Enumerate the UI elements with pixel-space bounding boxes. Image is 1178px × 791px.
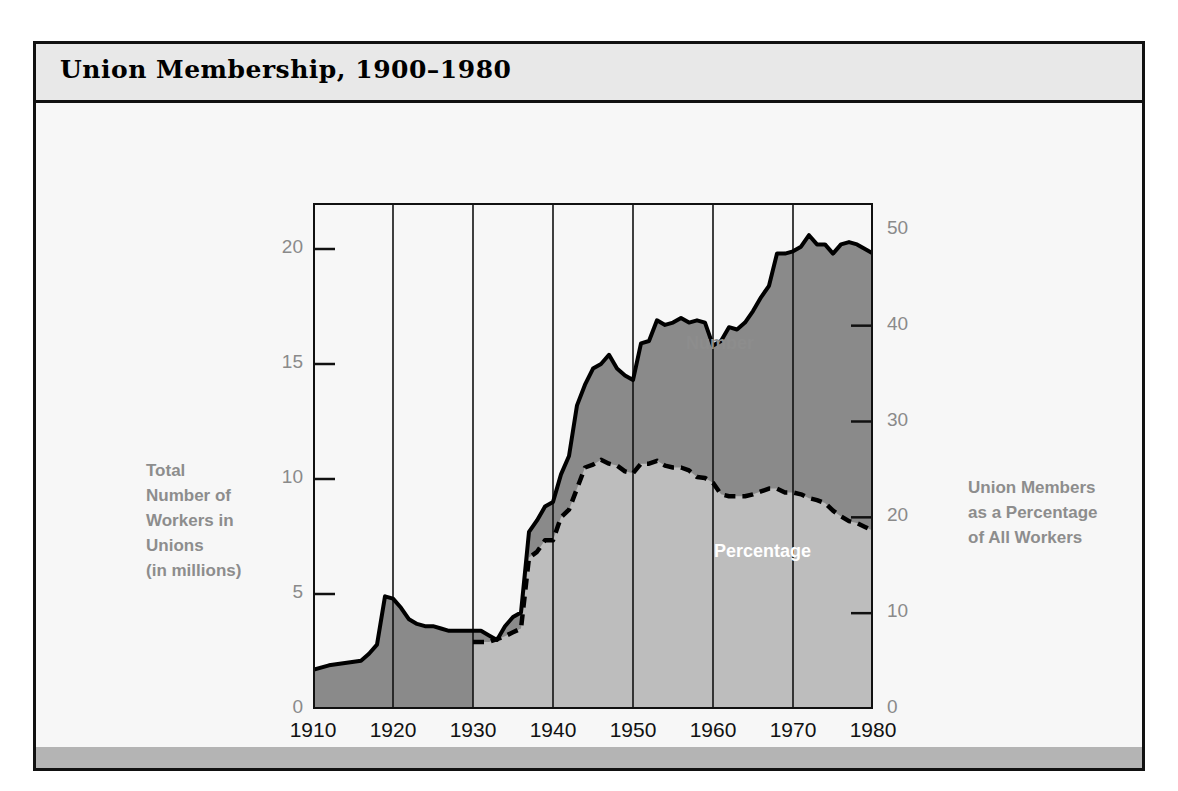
- title-band: Union Membership, 1900–1980: [36, 44, 1142, 103]
- series-label-percentage: Percentage: [714, 541, 811, 562]
- x-axis-tick-1930: 1930: [433, 718, 513, 742]
- figure-body: Total Number of Workers in Unions (in mi…: [36, 103, 1142, 747]
- x-axis-tick-1980: 1980: [833, 718, 913, 742]
- left-axis-tick-5: 5: [257, 581, 303, 603]
- page-title: Union Membership, 1900–1980: [60, 55, 511, 84]
- chart-svg: [313, 203, 873, 709]
- right-axis-caption: Union Members as a Percentage of All Wor…: [968, 475, 1178, 550]
- right-axis-tick-10: 10: [887, 600, 908, 622]
- right-axis-tick-50: 50: [887, 217, 908, 239]
- x-axis-tick-1920: 1920: [353, 718, 433, 742]
- figure-frame: Union Membership, 1900–1980 Total Number…: [33, 41, 1145, 771]
- series-label-number: Number: [686, 333, 754, 354]
- plot-area: [313, 203, 873, 709]
- left-axis-tick-15: 15: [257, 351, 303, 373]
- left-axis-tick-0: 0: [257, 696, 303, 718]
- left-axis-tick-10: 10: [257, 466, 303, 488]
- x-axis-tick-1910: 1910: [273, 718, 353, 742]
- right-axis-tick-30: 30: [887, 409, 908, 431]
- figure-page: Union Membership, 1900–1980 Total Number…: [0, 0, 1178, 791]
- x-axis-tick-1940: 1940: [513, 718, 593, 742]
- bottom-decorative-band: [36, 747, 1142, 768]
- x-axis-tick-1950: 1950: [593, 718, 673, 742]
- left-axis-tick-20: 20: [257, 236, 303, 258]
- number-area-fill: [313, 235, 873, 709]
- x-axis-tick-1970: 1970: [753, 718, 833, 742]
- right-axis-tick-0: 0: [887, 696, 898, 718]
- right-axis-tick-20: 20: [887, 504, 908, 526]
- x-axis-tick-1960: 1960: [673, 718, 753, 742]
- right-axis-tick-40: 40: [887, 313, 908, 335]
